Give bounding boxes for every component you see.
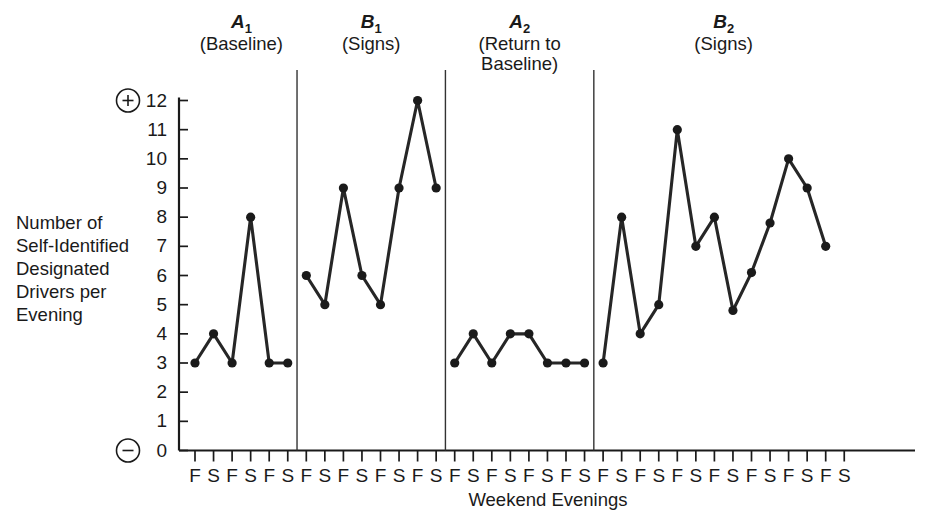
y-axis-tick-label: 11 bbox=[147, 119, 167, 140]
x-axis-tick-label: S bbox=[838, 465, 851, 486]
y-axis-tick-label: 7 bbox=[156, 235, 167, 256]
data-point bbox=[561, 358, 570, 367]
x-axis-tick-label: F bbox=[412, 465, 424, 486]
y-axis-label-line: Designated bbox=[16, 258, 110, 279]
data-point bbox=[450, 358, 459, 367]
data-point bbox=[339, 183, 348, 192]
data-point bbox=[302, 271, 311, 280]
y-axis-label-line: Drivers per bbox=[16, 281, 106, 302]
data-point bbox=[580, 358, 589, 367]
x-axis-tick-label: S bbox=[430, 465, 443, 486]
y-axis-tick-label: 0 bbox=[156, 440, 167, 461]
x-axis-tick-label: F bbox=[597, 465, 609, 486]
x-axis-tick-label: S bbox=[801, 465, 814, 486]
single-subject-design-line-chart: Number ofSelf-IdentifiedDesignatedDriver… bbox=[0, 0, 929, 528]
valence-markers bbox=[117, 89, 140, 462]
x-axis-tick-label: F bbox=[449, 465, 461, 486]
data-point bbox=[320, 300, 329, 309]
y-axis-label-line: Evening bbox=[16, 304, 83, 325]
y-axis-tick-label: 4 bbox=[156, 323, 167, 344]
data-point bbox=[487, 358, 496, 367]
data-series bbox=[190, 96, 830, 368]
y-axis-tick-label: 8 bbox=[156, 206, 167, 227]
data-point bbox=[413, 96, 422, 105]
data-point bbox=[636, 329, 645, 338]
data-point bbox=[524, 329, 533, 338]
x-axis-tick-label: S bbox=[615, 465, 628, 486]
x-axis-tick-label: S bbox=[467, 465, 480, 486]
x-axis-tick-label: S bbox=[281, 465, 294, 486]
y-axis-label: Number ofSelf-IdentifiedDesignatedDriver… bbox=[16, 212, 129, 325]
x-axis-tick-label: F bbox=[300, 465, 312, 486]
y-axis-tick-label: 6 bbox=[156, 265, 167, 286]
y-axis-tick-label: 5 bbox=[156, 294, 167, 315]
phase-condition-b1: (Signs) bbox=[342, 33, 401, 54]
x-axis-tick-label: S bbox=[207, 465, 220, 486]
x-axis-caption-label: Weekend Evenings bbox=[468, 489, 627, 510]
x-axis-tick-label: S bbox=[652, 465, 665, 486]
data-point bbox=[543, 358, 552, 367]
data-point bbox=[654, 300, 663, 309]
y-axis-tick-label: 9 bbox=[156, 177, 167, 198]
chart-page: Number ofSelf-IdentifiedDesignatedDriver… bbox=[0, 0, 929, 528]
x-axis-tick-label: S bbox=[393, 465, 406, 486]
y-axis-tick-label: 3 bbox=[156, 352, 167, 373]
x-axis-tick-label: F bbox=[671, 465, 683, 486]
x-axis-tick-label: F bbox=[375, 465, 387, 486]
x-axis-tick-label: F bbox=[560, 465, 572, 486]
phase-condition-a2: (Return to bbox=[478, 33, 560, 54]
phase-dividers bbox=[297, 70, 594, 451]
x-axis-tick-label: S bbox=[727, 465, 740, 486]
x-axis-tick-label: S bbox=[764, 465, 777, 486]
x-axis-tick-label: F bbox=[486, 465, 498, 486]
data-point bbox=[376, 300, 385, 309]
data-line-a1 bbox=[195, 217, 288, 363]
data-point bbox=[747, 268, 756, 277]
x-axis-tick-label: F bbox=[263, 465, 275, 486]
data-line-b1 bbox=[306, 101, 436, 305]
x-axis-tick-label: F bbox=[226, 465, 238, 486]
data-point bbox=[728, 306, 737, 315]
data-line-b2 bbox=[603, 130, 826, 363]
data-point bbox=[617, 213, 626, 222]
data-point bbox=[432, 183, 441, 192]
data-point bbox=[469, 329, 478, 338]
data-point bbox=[784, 154, 793, 163]
data-point bbox=[710, 213, 719, 222]
x-axis-tick-label: F bbox=[783, 465, 795, 486]
data-point bbox=[246, 213, 255, 222]
x-axis-tick-label: F bbox=[820, 465, 832, 486]
x-axis-tick-label: S bbox=[244, 465, 257, 486]
x-axis-tick-label: S bbox=[504, 465, 517, 486]
x-axis-tick-label: S bbox=[319, 465, 332, 486]
x-axis-tick-label: F bbox=[338, 465, 350, 486]
data-point bbox=[691, 242, 700, 251]
x-axis-tick-label: F bbox=[709, 465, 721, 486]
x-axis-tick-label: F bbox=[189, 465, 201, 486]
data-point bbox=[673, 125, 682, 134]
y-axis-tick-label: 2 bbox=[156, 381, 167, 402]
x-axis-tick-label: F bbox=[634, 465, 646, 486]
x-axis: FSFSFSFSFSFSFSFSFSFSFSFSFSFSFSFSFSFS bbox=[179, 451, 915, 486]
data-point bbox=[599, 358, 608, 367]
phase-condition-b2: (Signs) bbox=[694, 33, 753, 54]
data-point bbox=[228, 358, 237, 367]
data-point bbox=[765, 218, 774, 227]
x-axis-tick-label: S bbox=[690, 465, 703, 486]
data-point bbox=[283, 358, 292, 367]
phase-condition-a2: Baseline) bbox=[481, 53, 558, 74]
data-point bbox=[190, 358, 199, 367]
x-axis-tick-label: F bbox=[523, 465, 535, 486]
x-axis-tick-label: S bbox=[541, 465, 554, 486]
data-point bbox=[394, 183, 403, 192]
phase-condition-a1: (Baseline) bbox=[200, 33, 283, 54]
y-axis-tick-label: 1 bbox=[156, 410, 167, 431]
y-axis-tick-label: 12 bbox=[146, 90, 167, 111]
x-axis-caption: Weekend Evenings bbox=[468, 489, 627, 510]
y-axis: 0123456789101112 bbox=[146, 90, 188, 461]
y-axis-tick-label: 10 bbox=[146, 148, 167, 169]
x-axis-tick-label: S bbox=[578, 465, 591, 486]
data-point bbox=[357, 271, 366, 280]
data-point bbox=[209, 329, 218, 338]
data-point bbox=[265, 358, 274, 367]
